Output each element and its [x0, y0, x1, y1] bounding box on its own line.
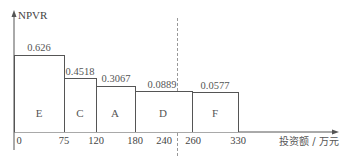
bar-label-D: D	[159, 108, 167, 119]
bar-C	[64, 78, 97, 132]
bar-label-F: F	[212, 108, 218, 119]
value-label-E: 0.626	[27, 43, 51, 54]
y-axis-arrow-icon	[12, 10, 17, 17]
value-label-C: 0.4518	[66, 67, 95, 78]
x-tick-330: 330	[230, 136, 246, 147]
x-tick-75: 75	[59, 136, 70, 147]
x-tick-120: 120	[88, 136, 104, 147]
value-label-F: 0.0577	[201, 81, 230, 92]
x-tick-260: 260	[185, 136, 201, 147]
bar-label-E: E	[36, 108, 43, 119]
x-axis-arrow-icon	[332, 130, 339, 135]
bar-label-A: A	[111, 108, 119, 119]
x-tick-0: 0	[16, 136, 21, 147]
bar-E	[14, 55, 65, 132]
y-axis-label: NPVR	[18, 10, 47, 21]
value-label-A: 0.3067	[102, 74, 131, 85]
x-axis-label: 投资额 / 万元	[279, 137, 339, 147]
bar-label-C: C	[76, 108, 83, 119]
x-tick-240: 240	[156, 136, 172, 147]
npvr-investment-chart: NPVR 0.626 0.4518 0.3067 0.0889 0.0577 E…	[0, 0, 350, 160]
x-tick-180: 180	[127, 136, 143, 147]
value-label-D: 0.0889	[148, 80, 177, 91]
